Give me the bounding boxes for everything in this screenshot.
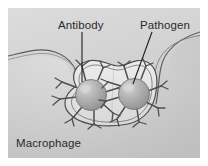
figure-container: Antibody Pathogen Macrophage: [0, 0, 208, 166]
label-antibody: Antibody: [58, 19, 104, 31]
macrophage-diagram: Antibody Pathogen Macrophage: [0, 0, 208, 166]
pathogen-highlight-right: [123, 84, 134, 92]
pathogen-highlight-left: [80, 85, 91, 93]
label-macrophage: Macrophage: [16, 137, 81, 149]
pathogen-sphere-right: [119, 79, 150, 110]
label-pathogen: Pathogen: [140, 19, 190, 31]
